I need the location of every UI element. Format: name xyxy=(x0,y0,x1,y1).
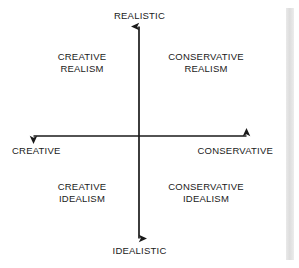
page-edge-artifact xyxy=(286,8,294,260)
quadrant-ur-line2: REALISM xyxy=(148,63,264,75)
quadrant-label-conservative-realism: CONSERVATIVE REALISM xyxy=(148,51,264,75)
axis-label-realistic: REALISTIC xyxy=(0,10,279,22)
axes-graphic xyxy=(0,0,299,268)
quadrant-lr-line1: CONSERVATIVE xyxy=(148,181,264,193)
quadrant-label-creative-idealism: CREATIVE IDEALISM xyxy=(36,181,128,205)
quadrant-lr-line2: IDEALISM xyxy=(148,193,264,205)
quadrant-label-creative-realism: CREATIVE REALISM xyxy=(36,51,128,75)
axis-label-idealistic: IDEALISTIC xyxy=(0,245,279,257)
quadrant-ll-line2: IDEALISM xyxy=(36,193,128,205)
quadrant-diagram: REALISTIC IDEALISTIC CREATIVE CONSERVATI… xyxy=(0,0,299,268)
quadrant-ll-line1: CREATIVE xyxy=(36,181,128,193)
axis-label-conservative: CONSERVATIVE xyxy=(0,145,273,157)
quadrant-ul-line1: CREATIVE xyxy=(36,51,128,63)
quadrant-ul-line2: REALISM xyxy=(36,63,128,75)
quadrant-ur-line1: CONSERVATIVE xyxy=(148,51,264,63)
quadrant-label-conservative-idealism: CONSERVATIVE IDEALISM xyxy=(148,181,264,205)
